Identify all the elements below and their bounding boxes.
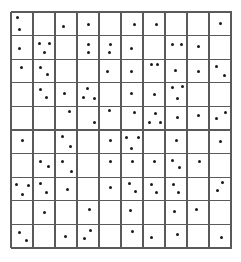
grid-dot	[15, 183, 18, 186]
grid-dot	[137, 136, 140, 139]
grid-row-line	[11, 11, 232, 12]
grid-dot	[108, 51, 111, 54]
grid-dot	[21, 193, 24, 196]
grid-row-line	[11, 153, 232, 154]
grid-row-line	[11, 247, 232, 248]
grid-dot	[215, 117, 218, 120]
grid-row-line	[11, 82, 232, 83]
grid-dot	[63, 92, 66, 95]
grid-dot	[18, 231, 21, 234]
grid-dot	[39, 182, 42, 185]
grid-dot	[130, 147, 133, 150]
grid-dot	[134, 190, 137, 193]
grid-dot	[150, 236, 153, 239]
grid-dot	[16, 16, 19, 19]
grid-row-line	[11, 224, 232, 225]
dot-grid	[11, 12, 231, 248]
grid-dot	[43, 51, 46, 54]
grid-dot	[133, 111, 136, 114]
grid-dot	[172, 183, 175, 186]
grid-dot	[39, 160, 42, 163]
grid-dot	[155, 23, 158, 26]
grid-dot	[39, 66, 42, 69]
grid-dot	[38, 42, 41, 45]
grid-dot	[43, 211, 46, 214]
grid-dot	[216, 189, 219, 192]
grid-dot	[87, 43, 90, 46]
grid-dot	[93, 121, 96, 124]
grid-row-line	[11, 200, 232, 201]
grid-dot	[176, 97, 179, 100]
grid-dot	[131, 160, 134, 163]
grid-dot	[176, 233, 179, 236]
grid-dot	[181, 85, 184, 88]
grid-dot	[109, 139, 112, 142]
grid-dot	[64, 235, 67, 238]
grid-dot	[18, 47, 21, 50]
grid-dot	[88, 208, 91, 211]
grid-dot	[27, 184, 30, 187]
grid-dot	[153, 160, 156, 163]
grid-dot	[128, 182, 131, 185]
grid-dot	[39, 88, 42, 91]
grid-dot	[153, 93, 156, 96]
grid-dot	[87, 51, 90, 54]
grid-dot	[47, 165, 50, 168]
grid-dot	[93, 97, 96, 100]
grid-dot	[221, 181, 224, 184]
grid-dot	[131, 230, 134, 233]
grid-dot	[108, 109, 111, 112]
grid-dot	[177, 191, 180, 194]
grid-dot	[66, 188, 69, 191]
grid-dot	[69, 145, 72, 148]
grid-row-line	[11, 129, 232, 130]
grid-dot	[25, 239, 28, 242]
grid-dot	[20, 66, 23, 69]
grid-dot	[83, 237, 86, 240]
grid-dot	[198, 160, 201, 163]
grid-dot	[125, 136, 128, 139]
grid-dot	[174, 69, 177, 72]
grid-dot	[223, 74, 226, 77]
grid-dot	[82, 96, 85, 99]
grid-dot	[173, 210, 176, 213]
grid-dot	[18, 28, 21, 31]
grid-dot	[87, 23, 90, 26]
grid-dot	[175, 139, 178, 142]
grid-row-line	[11, 35, 232, 36]
grid-row-line	[11, 106, 232, 107]
grid-dot	[155, 191, 158, 194]
grid-dot	[109, 160, 112, 163]
grid-dot	[130, 92, 133, 95]
grid-row-line	[11, 177, 232, 178]
grid-dot	[150, 183, 153, 186]
grid-dot	[68, 110, 71, 113]
grid-dot	[109, 43, 112, 46]
grid-dot	[62, 25, 65, 28]
grid-dot	[171, 86, 174, 89]
grid-dot	[197, 45, 200, 48]
grid-dot	[176, 116, 179, 119]
grid-dot	[48, 42, 51, 45]
grid-dot	[130, 47, 133, 50]
grid-dot	[171, 159, 174, 162]
grid-dot	[220, 236, 223, 239]
grid-dot	[154, 112, 157, 115]
grid-dot	[224, 111, 227, 114]
grid-dot	[130, 70, 133, 73]
grid-dot	[197, 70, 200, 73]
grid-dot	[45, 96, 48, 99]
grid-dot	[195, 208, 198, 211]
grid-dot	[215, 65, 218, 68]
grid-dot	[21, 139, 24, 142]
grid-dot	[178, 166, 181, 169]
grid-dot	[70, 170, 73, 173]
grid-dot	[180, 43, 183, 46]
grid-dot	[148, 121, 151, 124]
grid-dot	[61, 135, 64, 138]
grid-dot	[197, 114, 200, 117]
grid-dot	[171, 43, 174, 46]
grid-dot	[61, 160, 64, 163]
grid-dot	[219, 22, 222, 25]
grid-row-line	[11, 59, 232, 60]
